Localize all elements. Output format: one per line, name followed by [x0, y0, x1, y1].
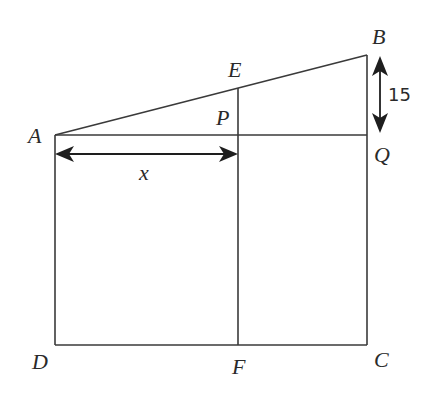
label-15: 15 [388, 84, 411, 105]
label-f: F [231, 354, 246, 379]
label-b: B [372, 24, 385, 49]
bq-dimension-arrow [372, 56, 388, 133]
label-c: C [374, 347, 389, 372]
geometry-diagram: A B E P Q D F C x 15 [0, 0, 428, 399]
label-p: P [215, 105, 229, 130]
label-a: A [26, 123, 42, 148]
label-x: x [138, 160, 149, 185]
segment-ab [55, 55, 367, 135]
label-e: E [227, 57, 242, 82]
label-d: D [31, 349, 48, 374]
label-q: Q [374, 142, 390, 167]
